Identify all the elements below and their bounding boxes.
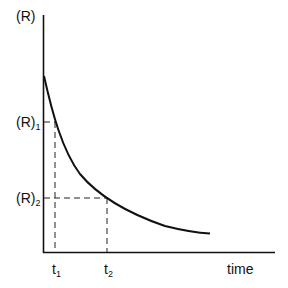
t2-sub: 2 [108, 269, 113, 279]
r1-sub: 1 [35, 122, 40, 132]
t1-sub: 1 [56, 269, 61, 279]
r2-label: (R)2 [16, 191, 40, 208]
r1-base: (R) [16, 114, 35, 130]
t2-label: t2 [104, 262, 113, 279]
t1-label: t1 [52, 262, 61, 279]
guide-lines [44, 122, 107, 252]
r1-label: (R)1 [16, 115, 40, 132]
x-axis-label: time [227, 262, 253, 276]
r2-sub: 2 [35, 198, 40, 208]
r2-base: (R) [16, 190, 35, 206]
decay-curve [44, 76, 210, 234]
y-axis-label: (R) [16, 9, 35, 23]
decay-chart [0, 0, 288, 288]
